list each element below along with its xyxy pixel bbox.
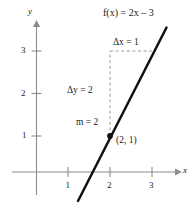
coordinate-plane [0,0,193,206]
function-label: f(x) = 2x – 3 [103,8,154,18]
y-axis-label: y [28,7,32,16]
delta-y-label: Δy = 2 [67,86,93,96]
function-line [78,28,167,202]
x-tick-label-3: 3 [149,181,154,190]
x-tick-label-1: 1 [66,181,71,190]
y-tick-label-3: 3 [21,46,26,55]
delta-x-label: Δx = 1 [113,38,139,48]
point-label: (2, 1) [116,136,137,146]
y-tick-label-2: 2 [21,89,26,98]
x-axis [12,167,182,177]
x-tick-label-2: 2 [107,181,112,190]
x-axis-label: x [183,166,187,175]
slope-label: m = 2 [76,118,98,128]
point-marker [107,133,113,139]
y-axis [32,20,42,195]
graph-figure: f(x) = 2x – 3 y x 3 2 1 1 2 3 Δx = 1 Δy … [0,0,193,206]
y-tick-label-1: 1 [22,131,27,140]
